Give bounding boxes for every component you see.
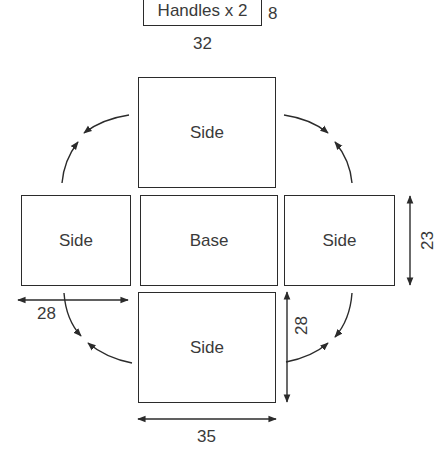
fold-arrow-icon <box>286 343 328 362</box>
bottom-width-label: 35 <box>197 428 216 445</box>
base-label: Base <box>190 231 229 251</box>
left-side-label: Side <box>59 231 93 251</box>
fold-arrow-icon <box>84 115 129 133</box>
right-side-label: Side <box>322 231 356 251</box>
bottom-side-label: Side <box>190 338 224 358</box>
fold-arrow-icon <box>64 293 81 336</box>
handles-height-label: 8 <box>268 5 277 22</box>
bottom-height-label: 28 <box>293 316 310 335</box>
left-side-panel: Side <box>21 195 131 286</box>
fold-arrow-icon <box>62 142 78 183</box>
fold-arrow-icon <box>335 142 352 183</box>
left-width-label: 28 <box>37 305 56 322</box>
handles-width-label: 32 <box>193 35 212 52</box>
handles-label: Handles x 2 <box>158 1 248 21</box>
top-side-label: Side <box>190 123 224 143</box>
fold-arrow-icon <box>88 343 132 363</box>
bottom-side-panel: Side <box>138 292 276 403</box>
base-panel: Base <box>140 195 278 286</box>
fold-arrow-icon <box>284 115 328 133</box>
right-side-panel: Side <box>284 195 395 286</box>
top-side-panel: Side <box>138 77 276 188</box>
handles-panel: Handles x 2 <box>143 0 262 26</box>
right-height-label: 23 <box>419 231 436 250</box>
fold-arrow-icon <box>335 293 352 337</box>
